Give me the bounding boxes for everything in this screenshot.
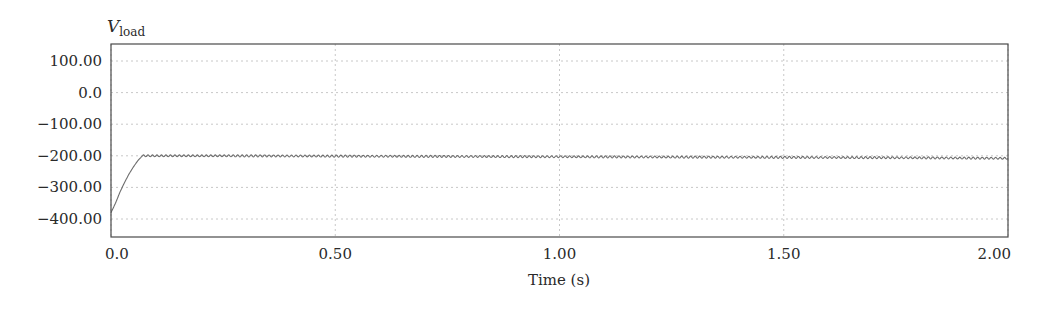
y-axis-ticks: 100.000.0−100.00−200.00−300.00−400.00 (37, 52, 102, 228)
y-tick-label: 100.00 (50, 52, 103, 70)
x-tick-label: 1.50 (767, 245, 800, 263)
y-tick-label: −300.00 (37, 178, 102, 196)
x-tick-label: 0.50 (319, 245, 352, 263)
voltage-chart: 100.000.0−100.00−200.00−300.00−400.00 0.… (0, 0, 1041, 311)
y-tick-label: −100.00 (37, 115, 102, 133)
x-axis-ticks: 0.00.501.001.502.00 (105, 245, 1011, 263)
y-axis-label: Vload (107, 16, 145, 39)
x-axis-label: Time (s) (528, 271, 590, 289)
y-axis-label-subscript: load (119, 25, 145, 39)
x-tick-label: 2.00 (978, 245, 1011, 263)
y-tick-label: −200.00 (37, 147, 102, 165)
y-tick-label: 0.0 (78, 84, 102, 102)
y-tick-label: −400.00 (37, 210, 102, 228)
x-tick-label: 0.0 (105, 245, 129, 263)
grid-lines (111, 44, 1008, 237)
x-tick-label: 1.00 (543, 245, 576, 263)
